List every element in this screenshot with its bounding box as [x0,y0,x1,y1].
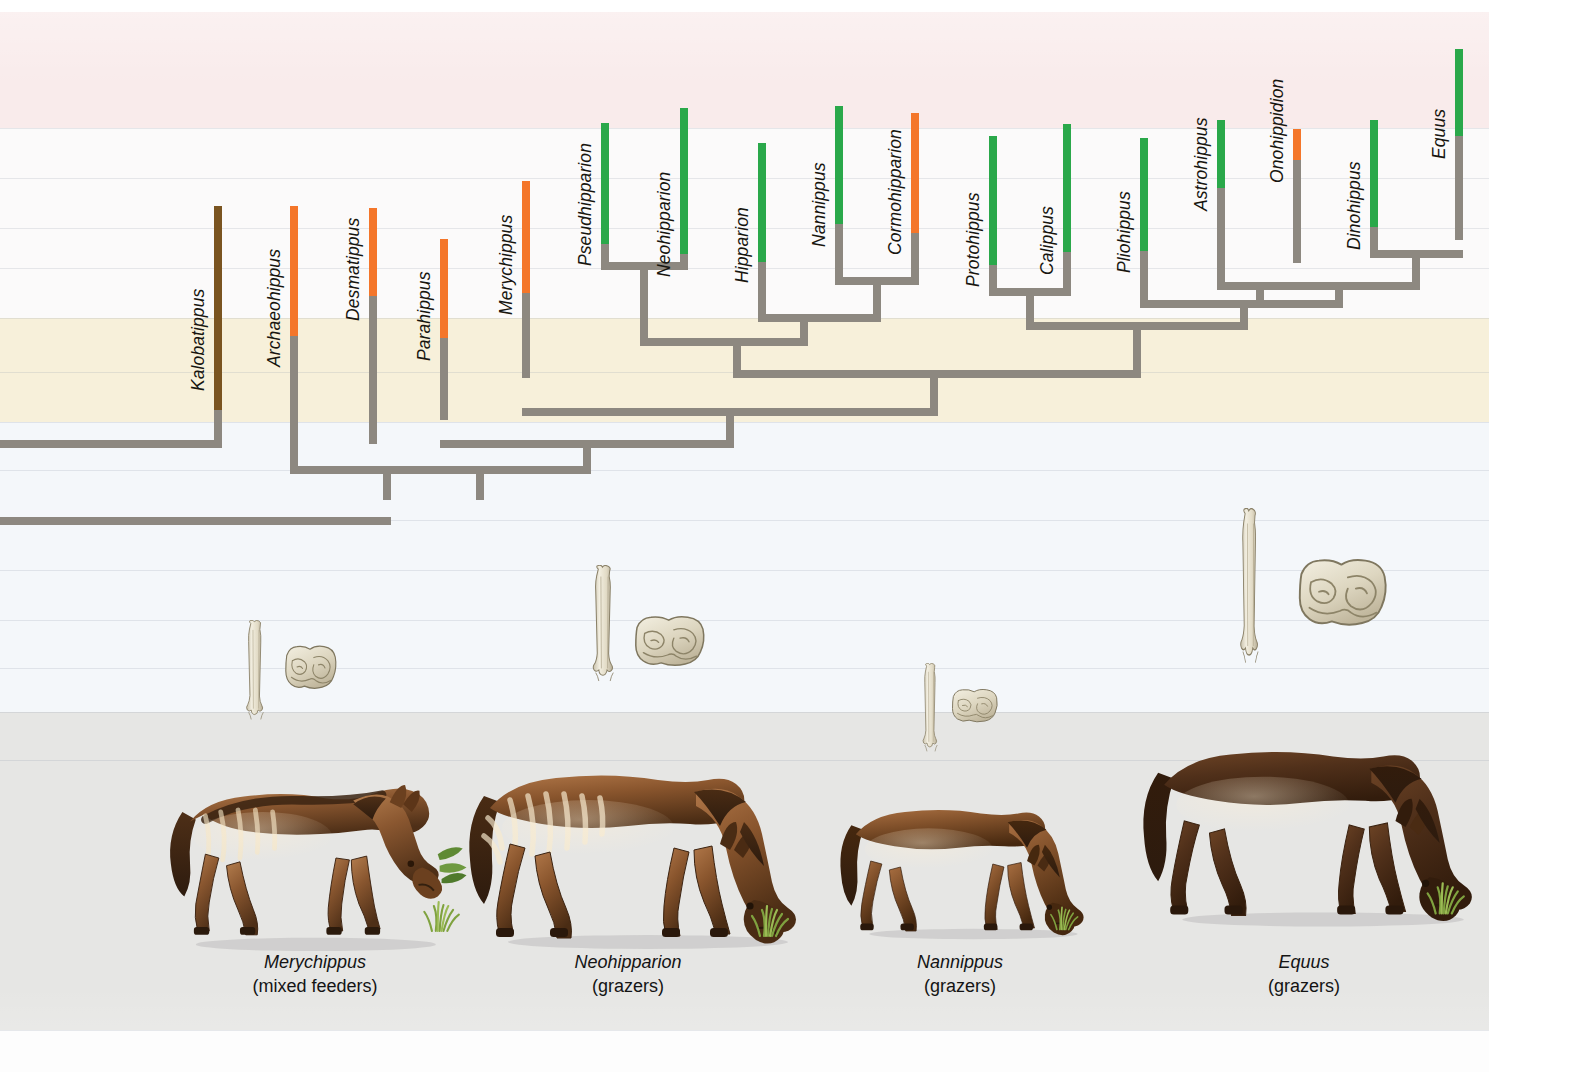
plate-neohipparion-diet-label: (grazers) [452,975,804,999]
taxon-range-bar-desmatippus[interactable] [369,208,377,296]
cladogram: KalobatippusArchaeohippusDesmatippusPara… [0,0,1489,560]
fossil-equus-molar-tooth [1295,555,1391,635]
taxon-label-merychippus: Merychippus [496,215,517,315]
taxon-stem-parahippus [440,338,448,420]
taxon-label-cormohipparion: Cormohipparion [885,129,906,255]
tree-branch-horizontal [0,440,222,448]
taxon-label-pseudhipparion: Pseudhipparion [575,143,596,266]
taxon-range-bar-merychippus[interactable] [522,181,530,293]
plate-equus-art [1132,708,1494,950]
taxon-range-bar-astrohippus[interactable] [1217,120,1225,188]
taxon-stem-kalobatippus [214,410,222,440]
stratum-hairline [0,1030,1489,1031]
taxon-range-bar-equus[interactable] [1455,49,1463,136]
taxon-range-bar-parahippus[interactable] [440,239,448,338]
taxon-range-bar-kalobatippus[interactable] [214,206,222,410]
taxon-label-pliohippus: Pliohippus [1114,191,1135,273]
taxon-stem-nannippus [835,224,843,277]
taxon-stem-astrohippus [1217,188,1225,282]
taxon-stem-archaeohippus [290,336,298,466]
taxon-range-bar-protohippus[interactable] [989,136,997,265]
taxon-stem-calippus [1063,252,1071,288]
taxon-label-desmatippus: Desmatippus [343,218,364,321]
taxon-label-protohippus: Protohippus [963,193,984,288]
fossil-neohipparion-metapodial-bone [589,565,620,691]
taxon-label-parahippus: Parahippus [414,271,435,361]
taxon-label-neohipparion: Neohipparion [654,172,675,277]
plate-equus-diet-label: (grazers) [1142,975,1466,999]
fossil-neohipparion-molar-tooth [632,613,708,673]
taxon-range-bar-cormohipparion[interactable] [911,113,919,233]
taxon-range-bar-archaeohippus[interactable] [290,206,298,336]
taxon-range-bar-dinohippus[interactable] [1370,120,1378,227]
taxon-label-astrohippus: Astrohippus [1191,117,1212,211]
plate-neohipparion-art [458,752,818,952]
plate-equus-species-name: Equus [1142,951,1466,975]
fossil-merychippus-metapodial-bone [243,620,269,728]
taxon-stem-pliohippus [1140,251,1148,300]
tree-branch-horizontal [640,338,808,346]
plate-nannippus-diet-label: (grazers) [810,975,1110,999]
band-bottom-white [0,1030,1489,1072]
stratum-hairline [0,570,1489,571]
taxon-label-hipparion: Hipparion [732,207,753,283]
plate-neohipparion-caption: Neohipparion(grazers) [452,951,804,999]
taxon-stem-dinohippus [1370,227,1378,250]
taxon-range-bar-pliohippus[interactable] [1140,138,1148,251]
plate-merychippus-species-name: Merychippus [148,951,482,975]
taxon-stem-pseudhipparion [601,244,609,262]
plate-merychippus-caption: Merychippus(mixed feeders) [148,951,482,999]
stratum-hairline [0,668,1489,669]
taxon-stem-merychippus [522,293,530,378]
taxon-range-bar-pseudhipparion[interactable] [601,123,609,244]
taxon-label-kalobatippus: Kalobatippus [188,289,209,391]
plate-neohipparion-species-name: Neohipparion [452,951,804,975]
taxon-stem-hipparion [758,262,766,314]
tree-branch-horizontal [0,517,391,525]
fossil-equus-metapodial-bone [1237,508,1264,676]
plate-merychippus-art [142,762,480,954]
taxon-label-onohippidion: Onohippidion [1267,79,1288,183]
taxon-label-calippus: Calippus [1037,206,1058,275]
taxon-stem-protohippus [989,265,997,288]
taxon-label-dinohippus: Dinohippus [1344,161,1365,250]
taxon-label-equus: Equus [1429,109,1450,159]
taxon-range-bar-neohipparion[interactable] [680,108,688,254]
taxon-label-nannippus: Nannippus [809,162,830,247]
taxon-stem-desmatippus [369,296,377,444]
fossil-nannippus-metapodial-bone [920,663,942,759]
taxon-stem-equus [1455,136,1463,240]
taxon-label-archaeohippus: Archaeohippus [264,249,285,367]
plate-nannippus-art [832,784,1100,950]
stratum-hairline [0,620,1489,621]
tree-branch-vertical [383,466,391,500]
tree-branch-vertical [640,262,648,346]
taxon-range-bar-onohippidion[interactable] [1293,129,1301,160]
taxon-stem-neohipparion [680,254,688,262]
taxon-range-bar-calippus[interactable] [1063,124,1071,252]
tree-branch-horizontal [758,314,881,322]
taxon-range-bar-hipparion[interactable] [758,143,766,262]
plate-merychippus-diet-label: (mixed feeders) [148,975,482,999]
fossil-merychippus-molar-tooth [283,643,339,695]
fossil-nannippus-molar-tooth [950,687,1000,727]
taxon-range-bar-nannippus[interactable] [835,106,843,224]
plate-equus-caption: Equus(grazers) [1142,951,1466,999]
plate-nannippus-species-name: Nannippus [810,951,1110,975]
plate-nannippus-caption: Nannippus(grazers) [810,951,1110,999]
taxon-stem-cormohipparion [911,233,919,277]
figure-root: KalobatippusArchaeohippusDesmatippusPara… [0,0,1583,1072]
taxon-stem-onohippidion [1293,160,1301,263]
